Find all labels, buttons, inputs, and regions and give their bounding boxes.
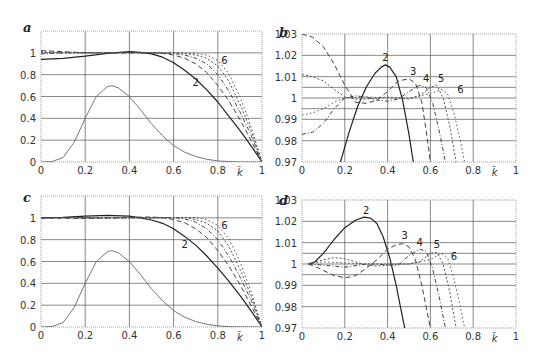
y-tick-label: 0.4 [20,278,36,289]
curve-label: 6 [451,251,457,262]
curve-label: 6 [457,84,463,95]
x-tick-label: 0 [38,165,44,176]
y-tick-label: 1.03 [275,29,297,40]
x-axis-label: k̃ [237,331,244,343]
y-tick-label: 0.98 [275,302,297,313]
x-axis-label: k̃ [492,332,499,344]
x-tick-label: 0.6 [422,331,438,342]
x-tick-label: 1 [513,331,519,342]
curve-2 [341,65,414,162]
gridlines [302,34,516,162]
curve-label: 4 [423,73,429,84]
figure: a00.20.40.60.8100.20.40.60.81k̃26 b0.970… [0,0,536,358]
panel-d: d0.970.980.9911.011.021.0300.20.40.60.81… [275,193,519,344]
x-tick-label: 0.4 [380,331,396,342]
x-axis-label: k̃ [237,166,244,178]
y-tick-label: 0 [30,322,36,333]
y-tick-label: 1.03 [275,195,297,206]
curve-3 [308,244,430,328]
curve-label: 6 [221,55,227,66]
y-tick-label: 0.2 [20,135,36,146]
panel-b: b0.970.980.9911.011.021.0300.20.40.60.81… [275,25,519,178]
panel-a: a00.20.40.60.8100.20.40.60.81k̃26 [20,20,265,178]
y-tick-label: 1 [291,259,297,270]
x-tick-label: 0 [299,165,305,176]
x-tick-label: 0.6 [166,330,182,341]
panel-c: c00.20.40.60.8100.20.40.60.81k̃26 [20,190,265,343]
curve-5 [41,217,262,327]
curve-2 [41,215,262,327]
curve-6 [41,53,262,162]
curve-label: 2 [363,205,369,216]
y-tick-label: 1.02 [275,216,297,227]
y-tick-label: 0.2 [20,300,36,311]
x-tick-label: 0.2 [337,331,353,342]
y-tick-label: 0.97 [275,323,297,334]
x-tick-label: 0.6 [166,165,182,176]
x-tick-label: 0.8 [465,331,481,342]
x-tick-label: 0.2 [77,330,93,341]
y-tick-label: 1.01 [275,238,297,249]
curve-2 [41,52,262,162]
curve-4 [41,53,262,162]
y-tick-label: 0.4 [20,113,36,124]
curve-label: 2 [193,77,199,88]
y-tick-label: 1.01 [275,72,297,83]
curve-4 [41,217,262,327]
curve-5 [41,52,262,162]
curve-spectrum [41,86,262,162]
curve-label: 5 [438,73,444,84]
x-tick-label: 1 [513,165,519,176]
y-tick-label: 1 [291,93,297,104]
y-tick-label: 0.98 [275,136,297,147]
y-tick-label: 1.02 [275,50,297,61]
x-tick-label: 0.8 [465,165,481,176]
curve-6 [302,90,465,163]
series-group [41,215,262,327]
x-tick-label: 0.8 [210,165,226,176]
x-tick-label: 1 [259,165,265,176]
y-tick-label: 0 [30,157,36,168]
curve-label: 4 [417,237,423,248]
curve-4 [302,85,445,162]
y-tick-label: 0.99 [275,280,297,291]
curve-label: 5 [434,239,440,250]
x-tick-label: 0.2 [77,165,93,176]
series-group [308,217,464,328]
y-tick-label: 0.6 [20,257,36,268]
curve-label: 2 [382,52,388,63]
y-tick-label: 0.8 [20,235,36,246]
x-tick-label: 0.6 [422,165,438,176]
x-tick-label: 0.4 [121,330,137,341]
x-axis-label: k̃ [492,166,499,178]
curve-label: 3 [402,230,408,241]
curve-6 [41,217,262,327]
x-tick-label: 0.4 [121,165,137,176]
x-tick-label: 0.8 [210,330,226,341]
curve-label: 3 [410,66,416,77]
panel-label: a [23,20,31,35]
x-tick-label: 0.4 [380,165,396,176]
x-tick-label: 1 [259,330,265,341]
panel-label: c [23,190,31,205]
y-tick-label: 0.97 [275,157,297,168]
curve-3 [41,217,262,327]
y-tick-label: 1 [30,213,36,224]
y-tick-label: 0.6 [20,92,36,103]
y-tick-label: 0.8 [20,70,36,81]
curve-2 [308,217,404,328]
y-tick-label: 1 [30,48,36,59]
x-tick-label: 0.2 [337,165,353,176]
curve-3 [41,51,262,162]
y-tick-label: 0.99 [275,114,297,125]
x-tick-label: 0 [38,330,44,341]
x-tick-label: 0 [299,331,305,342]
series-group [41,51,262,162]
curve-label: 6 [221,220,227,231]
curve-spectrum [41,251,262,327]
curve-label: 2 [181,239,187,250]
